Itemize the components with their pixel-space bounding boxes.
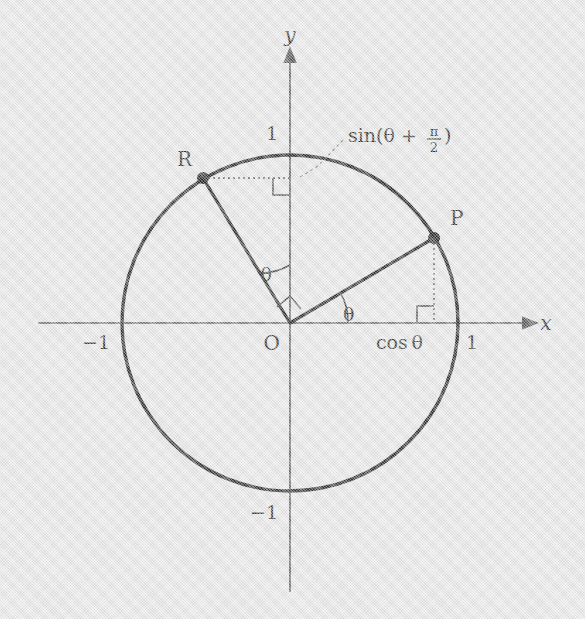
- unit-circle-diagram: x y 1 −1 −1 1 O P R θ θ cos θ sin(θ + π …: [0, 0, 585, 619]
- sin-label-suffix: ): [444, 124, 451, 146]
- x-tick-label-positive-one: 1: [466, 331, 478, 353]
- theta-label-r: θ: [261, 263, 272, 285]
- sin-label-numerator: π: [430, 124, 439, 139]
- point-p-label: P: [450, 206, 463, 230]
- labels-group: x y 1 −1 −1 1 O P R θ θ cos θ sin(θ + π …: [82, 23, 552, 523]
- right-angle-mark-cos: [417, 306, 434, 323]
- sin-label-prefix: sin(θ +: [348, 124, 417, 146]
- point-r-label: R: [177, 147, 193, 171]
- point-markers-group: [197, 172, 440, 244]
- x-tick-label-negative-one: −1: [82, 331, 110, 353]
- point-r-marker: [197, 172, 209, 184]
- y-tick-label-positive-one: 1: [266, 122, 278, 144]
- theta-label-p: θ: [343, 303, 354, 325]
- cos-theta-label: cos θ: [376, 331, 423, 353]
- radii-group: [203, 178, 434, 323]
- point-p-marker: [428, 232, 440, 244]
- right-angle-mark-sin: [273, 178, 290, 195]
- figure-canvas: x y 1 −1 −1 1 O P R θ θ cos θ sin(θ + π …: [0, 0, 585, 619]
- construction-lines-group: [203, 178, 434, 323]
- y-tick-label-negative-one: −1: [250, 501, 278, 523]
- sin-theta-plus-half-pi-label: sin(θ + π 2 ): [348, 124, 451, 155]
- x-axis-label: x: [540, 311, 551, 335]
- sin-label-denominator: 2: [430, 140, 438, 155]
- segment-op: [290, 238, 434, 323]
- segment-or: [203, 178, 290, 323]
- point-o-label: O: [264, 331, 280, 355]
- y-axis-label: y: [283, 23, 296, 47]
